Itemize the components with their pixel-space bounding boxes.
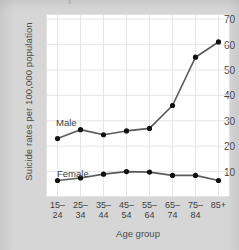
series-label-male: Male <box>56 117 77 128</box>
data-point-male <box>78 127 83 132</box>
figure-container: 10203040506070 15–2425–3435–4445–5455–64… <box>0 0 239 250</box>
data-point-male <box>55 136 60 141</box>
data-point-female <box>101 172 106 177</box>
data-point-male <box>124 128 129 133</box>
series-label-female: Female <box>57 168 89 179</box>
data-point-male <box>216 39 221 44</box>
data-series-layer <box>55 39 221 183</box>
data-point-male <box>101 132 106 137</box>
data-point-female <box>193 173 198 178</box>
data-point-female <box>216 178 221 183</box>
data-point-male <box>170 103 175 108</box>
y-axis-title: Suicide rates per 100,000 population <box>23 13 34 191</box>
x-axis-title: Age group <box>46 228 230 239</box>
data-point-female <box>124 169 129 174</box>
data-point-female <box>147 169 152 174</box>
chart-plot <box>0 0 239 250</box>
data-point-male <box>193 55 198 60</box>
data-point-male <box>147 126 152 131</box>
data-point-female <box>170 173 175 178</box>
